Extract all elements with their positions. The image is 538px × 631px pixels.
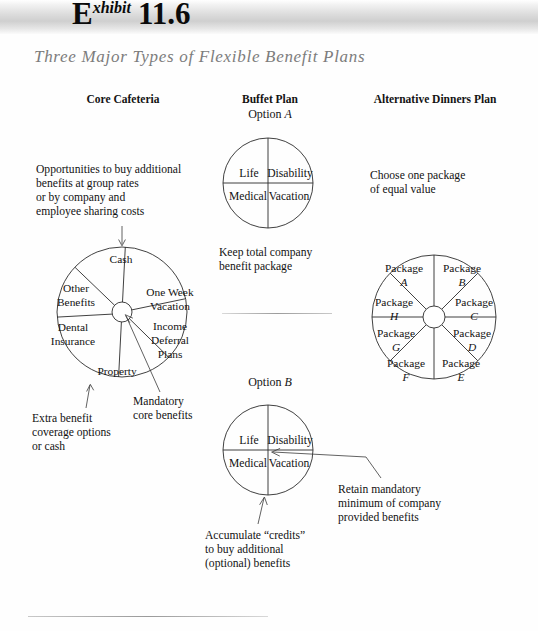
column-heading-buffet-plan: Buffet Plan (205, 93, 335, 105)
option-a-letter: A (285, 107, 292, 121)
core-segment-label-vacation: Vacation (150, 300, 190, 312)
alt-segment-word-b: Package (443, 262, 481, 274)
exhibit-word-superscript: xhibit (93, 0, 131, 16)
alt-segment-letter-h: H (389, 310, 399, 322)
alt-segment-letter-d: D (467, 341, 477, 353)
bottom-source-rule (28, 616, 268, 617)
option-b-prefix: Option (248, 375, 284, 389)
core-segment-label-plans: Plans (158, 348, 183, 360)
note-accumulate-credits: Accumulate “credits” to buy additional (… (205, 529, 365, 571)
exhibit-title: Exhibit11.6 (72, 0, 190, 29)
leader-retain-mandatory (273, 452, 381, 478)
option-b-quadrant-medical: Medical (229, 457, 267, 470)
option-a-outer-circle (223, 138, 313, 228)
alt-spoke-sw (390, 325, 426, 361)
option-a-label: Option A (205, 107, 335, 122)
core-spoke-4 (57, 314, 112, 317)
alt-segment-word-a: Package (385, 262, 423, 274)
option-b-label: Option B (205, 375, 335, 390)
alt-spoke-se (442, 325, 478, 361)
alt-segment-letter-b: B (459, 276, 466, 288)
option-b-quadrant-vacation: Vacation (269, 457, 310, 470)
leader-accumulate-credits (258, 498, 264, 524)
core-segment-label-one-week: One Week (146, 286, 194, 298)
column-heading-core-cafeteria: Core Cafeteria (48, 93, 198, 105)
core-cafeteria-wheel: Cash One Week Vacation Income Deferral P… (51, 226, 194, 408)
alt-segment-word-c: Package (455, 296, 493, 308)
alt-wheel-outer-circle (372, 255, 496, 379)
core-segment-label-benefits: Benefits (57, 296, 96, 308)
leader-opportunities-arrowhead (119, 240, 126, 246)
alt-spoke-ne (442, 273, 478, 309)
core-segment-label-other: Other (63, 282, 89, 294)
alt-segment-letter-a: A (400, 276, 408, 288)
core-segment-label-property: Property (97, 365, 137, 377)
core-segment-label-dental: Dental (58, 321, 88, 333)
note-opportunities-to-buy: Opportunities to buy additional benefits… (36, 163, 236, 220)
core-wheel-outer-circle (57, 247, 187, 377)
option-a-quadrant-vacation: Vacation (269, 190, 310, 203)
core-spoke-2 (129, 319, 168, 357)
alt-wheel-hub (423, 306, 445, 328)
note-mandatory-core-benefits: Mandatory core benefits (133, 395, 238, 423)
leader-retain-mandatory-arrowhead (272, 448, 281, 456)
exhibit-page: Exhibit11.6 Three Major Types of Flexibl… (0, 0, 538, 631)
exhibit-word-capital: E (72, 0, 93, 31)
alt-spoke-nw (390, 273, 426, 309)
source-line-faint (30, 620, 280, 628)
buffet-option-a-circle: Life Disability Medical Vacation (223, 138, 313, 228)
alt-segment-letter-f: F (402, 371, 411, 383)
alternative-dinners-wheel: Package A Package B Package C Package D … (372, 255, 496, 383)
option-b-quadrant-life: Life (239, 434, 258, 447)
option-a-quadrant-disability: Disability (267, 167, 313, 180)
middle-column-divider (222, 313, 332, 314)
core-spoke-6 (123, 247, 126, 302)
note-keep-total-company: Keep total company benefit package (219, 246, 349, 274)
alt-segment-letter-g: G (392, 341, 400, 353)
alt-segment-word-g: Package (377, 327, 415, 339)
leader-mandatory-core-arrowhead (125, 315, 133, 323)
note-retain-mandatory-minimum: Retain mandatory minimum of company prov… (338, 483, 488, 525)
leader-extra-benefit-arrowhead (87, 384, 94, 391)
core-segment-label-cash: Cash (110, 253, 133, 265)
option-b-letter: B (285, 375, 292, 389)
leader-extra-benefit (86, 385, 90, 408)
option-a-prefix: Option (248, 107, 284, 121)
alt-segment-letter-e: E (457, 371, 465, 383)
exhibit-subtitle: Three Major Types of Flexible Benefit Pl… (34, 47, 365, 67)
exhibit-number: 11.6 (138, 0, 191, 31)
leader-accumulate-credits-arrowhead (260, 497, 268, 505)
core-spoke-1 (132, 299, 186, 310)
core-segment-label-deferral: Deferral (151, 334, 189, 346)
alt-segment-word-e: Package (442, 357, 480, 369)
alt-segment-letter-c: C (470, 310, 478, 322)
alt-segment-word-h: Package (375, 296, 413, 308)
core-spoke-3 (119, 322, 122, 377)
note-choose-one-package: Choose one package of equal value (370, 169, 530, 197)
option-b-quadrant-disability: Disability (267, 434, 313, 447)
alt-segment-word-d: Package (453, 327, 491, 339)
column-heading-alternative-dinners-plan: Alternative Dinners Plan (340, 93, 530, 105)
leader-mandatory-core (126, 316, 160, 392)
core-spoke-5 (75, 267, 115, 305)
alt-segment-word-f: Package (387, 357, 425, 369)
core-segment-label-insurance: Insurance (51, 335, 95, 347)
core-wheel-hub (112, 302, 132, 322)
core-segment-label-income: Income (153, 320, 187, 332)
option-a-quadrant-life: Life (239, 167, 258, 180)
